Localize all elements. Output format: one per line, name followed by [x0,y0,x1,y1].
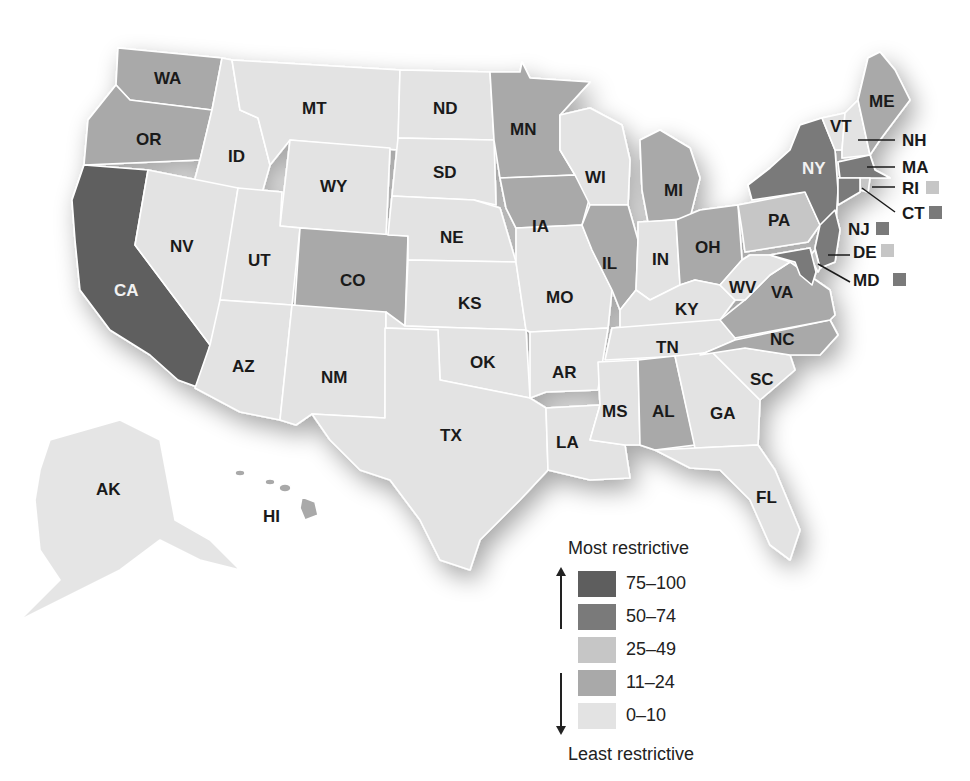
legend-row: 0–10 [578,699,756,732]
label-UT: UT [248,251,271,270]
label-LA: LA [556,433,579,452]
label-ME: ME [869,92,895,111]
legend-row: 75–100 [578,567,756,600]
label-FL: FL [756,488,777,507]
label-VT: VT [830,117,852,136]
label-HI: HI [263,507,280,526]
swatch-MD [893,273,906,286]
arrow-up-icon [560,573,562,629]
label-OK: OK [470,353,496,372]
label-TX: TX [440,426,462,445]
label-NC: NC [770,330,795,349]
label-IN: IN [652,250,669,269]
legend-range: 0–10 [626,705,666,726]
legend-range: 50–74 [626,606,676,627]
legend-swatch [578,637,616,663]
state-NM[interactable] [280,305,386,425]
state-MI[interactable] [640,130,700,222]
label-WA: WA [154,69,181,88]
label-NH: NH [902,131,927,150]
label-IL: IL [602,254,617,273]
legend-row: 11–24 [578,666,756,699]
label-AL: AL [652,402,675,421]
label-WI: WI [585,168,606,187]
swatch-NJ [876,222,889,235]
legend-row: 50–74 [578,600,756,633]
label-SC: SC [750,370,774,389]
legend-swatch [578,670,616,696]
label-AR: AR [552,363,577,382]
label-ID: ID [228,147,245,166]
label-NJ: NJ [848,220,870,239]
contiguous-states [72,48,910,570]
label-IA: IA [532,217,549,236]
state-AK[interactable] [20,420,240,620]
label-MN: MN [510,120,536,139]
label-OR: OR [136,130,162,149]
legend-range: 75–100 [626,573,686,594]
label-MI: MI [664,181,683,200]
us-choropleth-map: WA OR CA ID NV MT WY UT CO AZ NM ND SD N… [0,0,970,781]
label-NV: NV [170,237,194,256]
label-MD: MD [853,271,879,290]
label-GA: GA [710,404,736,423]
label-RI: RI [902,179,919,198]
label-TN: TN [656,338,679,357]
label-NY: NY [802,159,826,178]
swatch-CT [929,206,942,219]
legend-range: 11–24 [626,672,675,693]
label-CT: CT [902,204,925,223]
legend-swatch [578,604,616,630]
label-WY: WY [320,177,348,196]
swatch-DE [881,244,894,257]
label-AK: AK [96,480,121,499]
label-DE: DE [853,243,877,262]
label-ND: ND [433,99,458,118]
legend-rows: 75–100 50–74 25–49 11–24 0–10 [556,567,756,732]
label-KY: KY [675,300,699,319]
legend-bottom-label: Least restrictive [568,744,756,765]
label-MT: MT [302,99,327,118]
label-CO: CO [340,271,366,290]
label-KS: KS [458,294,482,313]
label-WV: WV [729,278,757,297]
label-MS: MS [602,402,628,421]
arrow-down-icon [560,673,562,729]
legend-swatch [578,703,616,729]
label-AZ: AZ [232,357,255,376]
label-VA: VA [771,283,793,302]
label-PA: PA [768,211,790,230]
legend-row: 25–49 [578,633,756,666]
legend-top-label: Most restrictive [568,538,756,559]
label-NM: NM [321,368,347,387]
label-MA: MA [902,158,928,177]
swatch-RI [926,181,939,194]
label-SD: SD [433,163,457,182]
label-NE: NE [440,228,464,247]
legend-swatch [578,571,616,597]
legend-range: 25–49 [626,639,676,660]
state-CT[interactable] [838,178,860,205]
legend: Most restrictive 75–100 50–74 25–49 11–2… [556,538,756,765]
label-CA: CA [114,281,139,300]
label-OH: OH [695,238,721,257]
label-MO: MO [546,288,573,307]
